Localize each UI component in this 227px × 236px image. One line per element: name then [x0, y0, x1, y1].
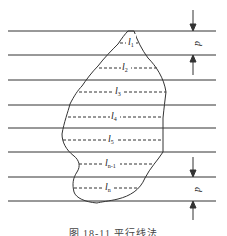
spacing-label-top: d — [193, 41, 204, 47]
figure-caption: 图 18-11 平行线法 — [0, 225, 227, 236]
parallel-line-method-diagram: l1 l2 l3 l4 l5 ln-1 ln d d — [0, 0, 227, 236]
segment-labels: l1 l2 l3 l4 l5 ln-1 ln — [104, 34, 136, 193]
spacing-label-bottom: d — [193, 187, 204, 193]
